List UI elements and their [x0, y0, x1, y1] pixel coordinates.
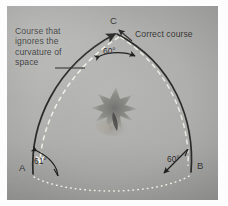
vertex-label-c: C: [110, 15, 117, 26]
photo-plate: Course that ignores the curvature of spa…: [7, 6, 218, 200]
vertex-label-a: A: [19, 162, 25, 173]
caption-correct-course: Correct course: [135, 29, 193, 39]
angle-label-b: 60°: [167, 154, 180, 164]
angle-label-a: 61°: [34, 156, 47, 166]
angle-label-c: 60°: [103, 46, 116, 56]
caption-flat-course: Course that ignores the curvature of spa…: [15, 26, 62, 68]
figure-page: Course that ignores the curvature of spa…: [0, 0, 228, 206]
vertex-label-b: B: [197, 160, 203, 171]
